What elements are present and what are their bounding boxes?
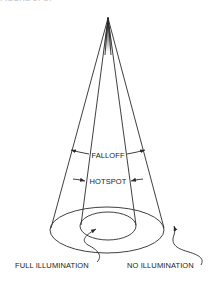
falloff-label: FALLOFF [91,151,125,160]
hotspot-label: HOTSPOT [90,177,127,186]
hotspot-dimension: HOTSPOT [73,177,143,186]
falloff-dimension: FALLOFF [71,150,145,160]
no-illumination-leader [173,226,202,265]
spotlight-diagram: FALLOFF HOTSPOT FULL ILLUMINATION NO ILL… [0,0,224,284]
full-illumination-leader [84,229,99,262]
light-source-apex [103,17,113,55]
falloff-ellipse [50,207,164,253]
no-illumination-label: NO ILLUMINATION [127,261,194,270]
hotspot-ellipse [80,212,136,240]
full-illumination-label: FULL ILLUMINATION [15,261,89,270]
